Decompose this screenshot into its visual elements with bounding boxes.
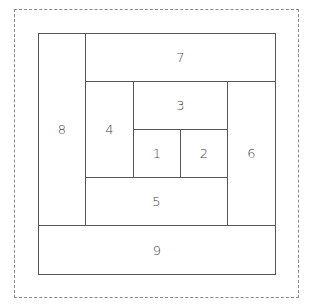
piece-7: 7	[85, 33, 276, 82]
piece-label: 8	[58, 122, 66, 137]
piece-9: 9	[38, 225, 276, 275]
piece-2: 2	[180, 129, 228, 178]
piece-label: 3	[176, 98, 184, 113]
piece-label: 1	[153, 146, 161, 161]
piece-5: 5	[85, 177, 228, 226]
piece-3: 3	[133, 81, 228, 130]
piece-label: 7	[176, 50, 184, 65]
piece-label: 9	[153, 243, 161, 258]
piece-1: 1	[133, 129, 181, 178]
piece-6: 6	[227, 81, 276, 226]
piece-label: 5	[152, 194, 160, 209]
piece-label: 4	[105, 122, 113, 137]
piece-label: 6	[247, 146, 255, 161]
piece-4: 4	[85, 81, 134, 178]
piece-label: 2	[200, 146, 208, 161]
piece-8: 8	[38, 33, 86, 226]
